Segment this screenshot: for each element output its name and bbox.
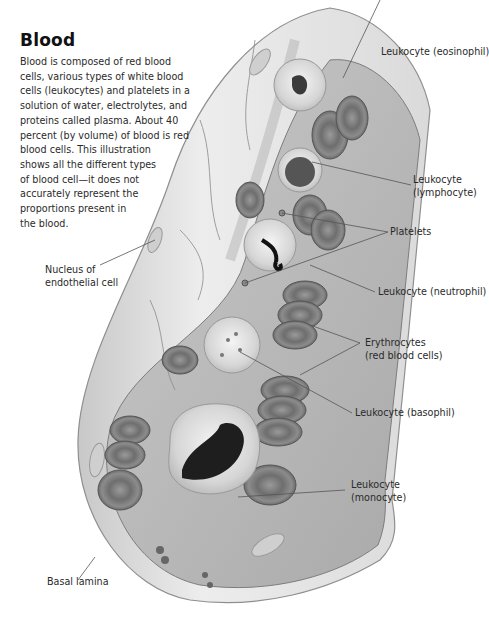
intro-line: cells (leukocytes) and platelets in a [20,84,180,99]
label-eosinophil: Leukocyte (eosinophil) [381,46,489,59]
intro-line: proteins called plasma. About 40 [20,114,180,129]
label-basal-lamina: Basal lamina [47,576,109,589]
intro-line: solution of water, electrolytes, and [20,99,180,114]
label-basophil: Leukocyte (basophil) [355,407,455,420]
label-neutrophil: Leukocyte (neutrophil) [378,286,486,299]
intro-line: cells, various types of white blood [20,70,180,85]
intro-line: blood cells. This illustration [20,143,180,158]
intro-line: of blood cell—it does not [20,173,180,188]
intro-line: percent (by volume) of blood is red [20,129,180,144]
label-lymphocyte: Leukocyte (lymphocyte) [413,174,477,199]
intro-line: shows all the different types [20,158,180,173]
intro-line: the blood. [20,217,180,232]
intro-paragraph: Blood is composed of red blood cells, va… [20,55,180,231]
figure-title: Blood [20,30,75,50]
intro-line: Blood is composed of red blood [20,55,180,70]
label-platelets: Platelets [390,226,431,239]
label-endothelial-nucleus: Nucleus of endothelial cell [45,264,118,289]
intro-line: accurately represent the [20,187,180,202]
label-erythrocytes: Erythrocytes (red blood cells) [365,337,442,362]
intro-line: proportions present in [20,202,180,217]
label-monocyte: Leukocyte (monocyte) [351,479,406,504]
